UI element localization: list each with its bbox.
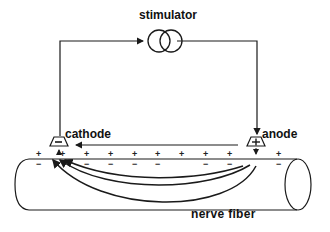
nerve-stimulation-diagram (0, 0, 330, 232)
plus-charge-sign: + (108, 150, 113, 159)
minus-charge-sign: − (276, 160, 281, 169)
minus-charge-sign: − (227, 160, 232, 169)
nerve-fiber-label: nerve fiber (191, 207, 256, 221)
stimulator-icon (148, 30, 182, 52)
minus-charge-sign: − (108, 160, 113, 169)
anode-label: anode (262, 127, 297, 141)
minus-charge-sign: − (155, 160, 160, 169)
plus-charge-sign: + (227, 150, 232, 159)
stimulator-label: stimulator (139, 8, 197, 22)
plus-charge-sign: + (203, 150, 208, 159)
minus-charge-sign: − (84, 160, 89, 169)
minus-charge-sign: − (132, 160, 137, 169)
plus-charge-sign: + (155, 150, 160, 159)
plus-charge-sign: + (132, 150, 137, 159)
cathode-label: cathode (65, 127, 111, 141)
plus-charge-sign: + (276, 150, 281, 159)
plus-charge-sign: + (84, 150, 89, 159)
plus-charge-sign: + (179, 150, 184, 159)
minus-charge-sign: − (203, 160, 208, 169)
minus-charge-sign: − (36, 160, 41, 169)
circuit-wires (60, 41, 257, 136)
plus-charge-sign: + (36, 150, 41, 159)
plus-charge-sign: + (60, 150, 65, 159)
